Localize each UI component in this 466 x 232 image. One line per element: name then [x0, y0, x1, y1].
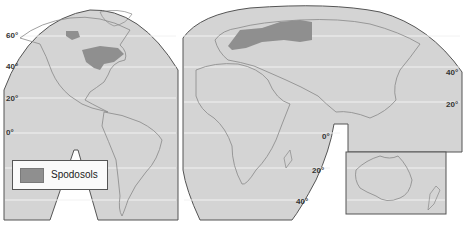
australia-inset: [346, 152, 446, 214]
lat-label-40-africa: 40°: [296, 197, 308, 206]
lat-label-20-africa: 20°: [312, 166, 324, 175]
lat-label-0-africa: 0°: [322, 132, 330, 141]
lat-label-40-right: 40°: [446, 68, 458, 77]
lat-label-60-left: 60°: [6, 31, 18, 40]
world-map: [0, 0, 466, 232]
lat-label-0-left: 0°: [6, 128, 14, 137]
spodosols-swatch: [20, 168, 44, 183]
lat-label-20-left: 20°: [6, 94, 18, 103]
lat-label-40-left: 40°: [6, 62, 18, 71]
map-legend: Spodosols: [12, 160, 108, 190]
legend-label-spodosols: Spodosols: [51, 169, 98, 180]
lat-label-20-right: 20°: [446, 100, 458, 109]
